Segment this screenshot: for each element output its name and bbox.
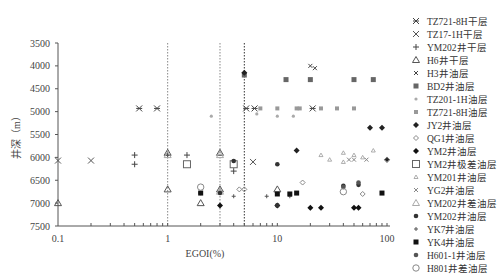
legend-marker-icon xyxy=(410,250,424,260)
legend-label: YM201井油层 xyxy=(427,170,487,184)
series-x-small xyxy=(308,64,317,70)
legend-item: YM2井极差油层 xyxy=(410,157,504,170)
y-axis-title: 井深（m） xyxy=(10,111,22,159)
legend-marker-icon xyxy=(410,172,424,182)
legend-marker-icon xyxy=(410,185,424,195)
axes xyxy=(58,43,390,226)
legend-label: YG2井油层 xyxy=(427,183,475,197)
legend-marker-icon xyxy=(410,42,424,52)
legend-item: YK4井油层 xyxy=(410,235,504,248)
legend-label: YM202井油层 xyxy=(427,209,487,223)
legend-label: YM202井干层 xyxy=(427,40,487,54)
legend-label: YM202井差油层 xyxy=(427,196,497,210)
y-tick-label: 6500 xyxy=(30,175,50,186)
legend-marker-icon xyxy=(410,16,424,26)
legend-item: TZ721-8H干层 xyxy=(410,14,504,27)
series-triangle-open xyxy=(164,152,223,195)
legend-marker-icon xyxy=(410,133,424,143)
series-plus-small xyxy=(232,194,292,198)
legend-item: H3井油层 xyxy=(410,66,504,79)
legend-marker-icon xyxy=(410,120,424,130)
legend-label: YK7井油层 xyxy=(427,222,475,236)
y-tick-label: 7500 xyxy=(30,221,50,232)
legend-marker-icon xyxy=(410,94,424,104)
series-square-small xyxy=(258,106,356,110)
legend-label: JY2井油层 xyxy=(427,118,472,132)
legend-item: BD2井油层 xyxy=(410,79,504,92)
legend-label: H6井干层 xyxy=(427,53,469,67)
series-asterisk xyxy=(136,105,315,111)
x-tick-label: 0.1 xyxy=(52,233,65,244)
series-dot xyxy=(198,159,360,208)
x-tick-label: 100 xyxy=(380,233,395,244)
y-tick-label: 3500 xyxy=(30,38,50,49)
legend-marker-icon xyxy=(410,198,424,208)
legend-label: H601-1井油层 xyxy=(427,248,486,262)
legend-marker-icon xyxy=(410,29,424,39)
legend-marker-icon xyxy=(410,107,424,117)
reference-lines xyxy=(168,43,245,226)
legend-label: BD2井油层 xyxy=(427,79,475,93)
legend-item: JY2井油层 xyxy=(410,118,504,131)
legend-marker-icon xyxy=(410,224,424,234)
series-square xyxy=(242,73,376,83)
y-tick-label: 6000 xyxy=(30,152,50,163)
series-square xyxy=(198,191,384,197)
legend-item: TZ201-1H油层 xyxy=(410,92,504,105)
legend-item: H6井干层 xyxy=(410,53,504,66)
legend-label: H3井油层 xyxy=(427,66,469,80)
legend-item: TZ17-1H干层 xyxy=(410,27,504,40)
series-square-open xyxy=(183,161,237,168)
legend-item: H801井差油层 xyxy=(410,261,504,274)
legend-marker-icon xyxy=(410,68,424,78)
y-tick-label: 4500 xyxy=(30,83,50,94)
legend-item: QG1井油层 xyxy=(410,131,504,144)
legend-label: H801井差油层 xyxy=(427,261,488,275)
legend-item: YM202井油层 xyxy=(410,209,504,222)
legend-item: YM201井油层 xyxy=(410,170,504,183)
legend-label: TZ721-8H油层 xyxy=(427,105,488,119)
x-tick-label: 1 xyxy=(165,233,170,244)
legend-item: H601-1井油层 xyxy=(410,248,504,261)
legend-marker-icon xyxy=(410,55,424,65)
series-x xyxy=(55,158,256,165)
y-tick-label: 4000 xyxy=(30,60,50,71)
legend-label: YM2井油层 xyxy=(427,144,477,158)
legend-item: YM202井干层 xyxy=(410,40,504,53)
legend-label: QG1井油层 xyxy=(427,131,475,145)
y-tick-label: 5500 xyxy=(30,129,50,140)
legend-marker-icon xyxy=(410,211,424,221)
legend-item: YM202井差油层 xyxy=(410,196,504,209)
legend-label: TZ201-1H油层 xyxy=(427,92,488,106)
x-tick-label: 10 xyxy=(272,233,282,244)
legend-item: YK7井油层 xyxy=(410,222,504,235)
series-diamond-filled xyxy=(241,70,390,163)
legend: TZ721-8H干层TZ17-1H干层YM202井干层H6井干层H3井油层BD2… xyxy=(410,14,504,274)
legend-label: YK4井油层 xyxy=(427,235,475,249)
y-tick-label: 5000 xyxy=(30,106,50,117)
legend-item: TZ721-8H油层 xyxy=(410,105,504,118)
legend-marker-icon xyxy=(410,159,424,169)
legend-marker-icon xyxy=(410,146,424,156)
series-x-small xyxy=(347,158,369,162)
legend-marker-icon xyxy=(410,237,424,247)
x-axis-title: EGOI(%) xyxy=(186,248,225,260)
series-dot-small xyxy=(210,112,295,191)
legend-item: YM2井油层 xyxy=(410,144,504,157)
legend-marker-icon xyxy=(410,81,424,91)
legend-label: TZ721-8H干层 xyxy=(427,14,488,28)
legend-item: YG2井油层 xyxy=(410,183,504,196)
series-diamond-open xyxy=(237,157,390,196)
series-diamond-filled xyxy=(217,202,362,210)
legend-marker-icon xyxy=(410,263,424,273)
y-tick-label: 7000 xyxy=(30,198,50,209)
legend-label: YM2井极差油层 xyxy=(427,157,497,171)
legend-label: TZ17-1H干层 xyxy=(427,27,483,41)
y-ticks: 350040004500500055006000650070007500 xyxy=(30,38,58,232)
data-points xyxy=(55,64,391,211)
